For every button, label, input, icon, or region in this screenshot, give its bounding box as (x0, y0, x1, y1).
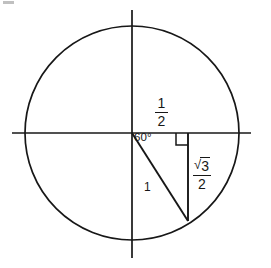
right-angle-marker-icon (176, 133, 188, 145)
unit-circle-diagram (0, 0, 271, 268)
unit-circle-figure: 60° 1 1 2 √ 3 2 (0, 0, 271, 268)
hypotenuse-segment (132, 133, 188, 221)
